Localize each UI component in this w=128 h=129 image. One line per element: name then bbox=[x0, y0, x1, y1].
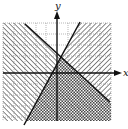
y-axis-label: y bbox=[54, 0, 61, 11]
inequality-graph: y x bbox=[0, 0, 128, 129]
y-axis-arrow-icon bbox=[54, 11, 60, 19]
x-axis-arrow-icon bbox=[114, 70, 122, 76]
x-axis-label: x bbox=[123, 67, 128, 78]
